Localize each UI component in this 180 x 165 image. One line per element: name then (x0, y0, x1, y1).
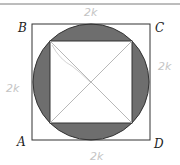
annotation-top: 2k (84, 6, 98, 19)
geometry-figure: B C A D 2k 2k 2k 2k (0, 0, 180, 165)
vertex-label-d: D (153, 137, 164, 151)
vertex-label-c: C (155, 21, 164, 35)
vertex-label-a: A (16, 135, 26, 149)
annotation-right: 2k (158, 60, 172, 73)
vertex-label-b: B (17, 21, 27, 35)
annotation-left: 2k (6, 82, 20, 95)
annotation-bottom: 2k (90, 150, 104, 163)
